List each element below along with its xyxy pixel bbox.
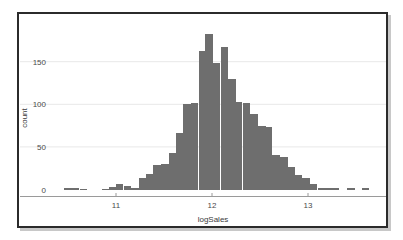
histogram-bar	[310, 184, 317, 189]
histogram-bar	[347, 188, 354, 190]
histogram-bar	[153, 165, 160, 190]
histogram-bar	[176, 133, 183, 189]
histogram-bar	[116, 184, 123, 189]
histogram-bar	[280, 157, 287, 189]
histogram-bar	[169, 153, 176, 190]
histogram-bar	[302, 178, 309, 189]
histogram-bar	[258, 126, 265, 189]
histogram-bar	[205, 34, 212, 190]
histogram-bar	[199, 51, 206, 190]
x-axis-title: logSales	[198, 215, 229, 224]
histogram-bar	[324, 188, 331, 190]
histogram-bar	[131, 188, 138, 190]
histogram-bar	[243, 103, 250, 189]
x-tick-label: 12	[208, 201, 217, 210]
histogram-bar	[146, 174, 153, 189]
histogram-bar	[64, 188, 71, 190]
histogram-bar	[332, 188, 339, 190]
histogram-bar	[183, 104, 190, 189]
histogram-bar	[221, 47, 228, 189]
histogram-bar	[161, 164, 168, 190]
histogram-bar	[228, 79, 235, 190]
y-tick-label: 150	[33, 58, 47, 67]
y-tick-label: 0	[42, 186, 47, 195]
plot-area: 111213 050100150 logSales count	[0, 0, 403, 240]
histogram-bar	[102, 189, 109, 190]
x-tick-label: 13	[304, 201, 313, 210]
histogram-bar	[318, 188, 325, 190]
y-axis-title: count	[20, 107, 29, 127]
y-tick-group: 050100150	[33, 58, 47, 195]
histogram-bar	[109, 187, 116, 190]
bars-group	[64, 34, 369, 190]
histogram-bar	[235, 102, 242, 190]
x-tick-label: 11	[112, 201, 121, 210]
y-tick-label: 100	[33, 100, 47, 109]
histogram-bar	[250, 114, 257, 190]
histogram-bar	[265, 127, 272, 189]
histogram-bar	[72, 188, 79, 190]
x-tick-group: 111213	[112, 193, 313, 210]
histogram-bar	[139, 178, 146, 189]
histogram-bar	[124, 186, 131, 189]
histogram-bar	[191, 103, 198, 190]
histogram-bar	[362, 188, 369, 190]
histogram-figure: 111213 050100150 logSales count	[0, 0, 403, 240]
histogram-bar	[213, 63, 220, 189]
y-tick-label: 50	[37, 143, 46, 152]
histogram-bar	[288, 167, 295, 189]
histogram-bar	[272, 155, 279, 189]
histogram-bar	[80, 189, 87, 190]
histogram-bar	[295, 175, 302, 189]
